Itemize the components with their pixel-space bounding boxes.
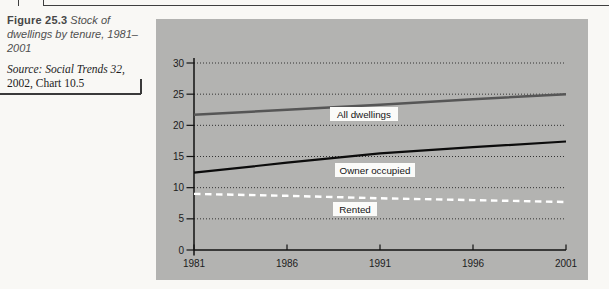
x-tick-label-1996: 1996 — [462, 258, 485, 269]
figure-number: Figure 25.3 — [7, 14, 67, 26]
x-tick-label-1991: 1991 — [369, 258, 392, 269]
page: Figure 25.3 Stock of dwellings by tenure… — [0, 0, 609, 289]
top-table-border-left — [18, 0, 19, 6]
x-tick-label-1981: 1981 — [183, 258, 206, 269]
figure-source: Source: Social Trends 32, 2002, Chart 10… — [7, 62, 145, 90]
y-tick-label-10: 10 — [173, 182, 185, 193]
y-tick-label-5: 5 — [178, 213, 184, 224]
figure-caption-title: Figure 25.3 Stock of dwellings by tenure… — [7, 13, 145, 55]
top-horizontal-rule — [43, 5, 609, 6]
series-label-all-dwellings: All dwellings — [330, 107, 398, 121]
y-tick-label-25: 25 — [173, 89, 185, 100]
series-label-text: All dwellings — [337, 109, 391, 120]
top-table-border-right — [43, 0, 44, 6]
series-label-text: Rented — [339, 204, 371, 215]
x-tick-label-2001: 2001 — [555, 258, 578, 269]
line-chart: 05101520253019811986199119962001All dwel… — [156, 19, 588, 280]
panel-background — [156, 19, 588, 280]
y-tick-label-20: 20 — [173, 120, 185, 131]
source-prefix: Source: — [7, 63, 42, 75]
y-tick-label-15: 15 — [173, 151, 185, 162]
series-label-rented: Rented — [333, 202, 377, 216]
caption-rule-stub — [140, 79, 142, 94]
figure-caption: Figure 25.3 Stock of dwellings by tenure… — [7, 13, 145, 90]
y-tick-label-30: 30 — [173, 58, 185, 69]
caption-bottom-rule — [0, 93, 141, 95]
source-detail: 2002, Chart 10.5 — [7, 77, 84, 89]
y-tick-label-0: 0 — [178, 245, 184, 256]
x-tick-label-1986: 1986 — [276, 258, 299, 269]
chart-panel: United Kingdom Millions 0510152025301981… — [156, 19, 588, 280]
series-label-text: Owner occupied — [340, 165, 411, 176]
source-work: Social Trends 32, — [45, 63, 125, 75]
series-label-owner-occupied: Owner occupied — [335, 163, 415, 177]
